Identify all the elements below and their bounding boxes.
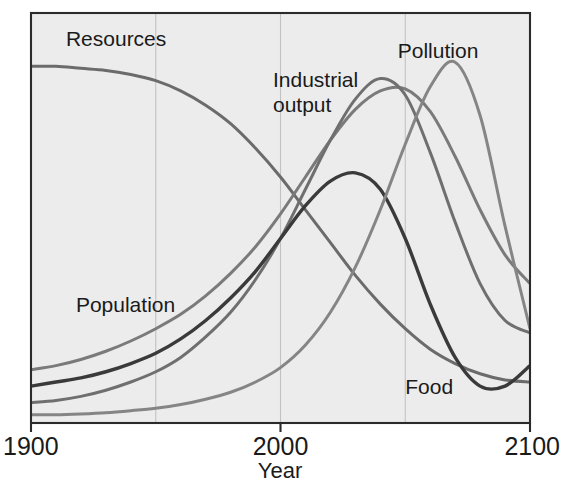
series-label-line: Resources <box>66 27 166 50</box>
tick-label-2100: 2100 <box>504 432 560 460</box>
chart-container: 190020002100 ResourcesPopulationIndustri… <box>0 0 563 487</box>
series-label-line: Pollution <box>398 39 479 62</box>
series-label-resources: Resources <box>66 27 166 50</box>
x-axis-title: Year <box>258 458 302 483</box>
tick-label-2000: 2000 <box>253 432 309 460</box>
x-axis-tick-labels: 190020002100 <box>3 432 560 460</box>
series-label-line: Population <box>76 293 175 316</box>
series-label-line: Food <box>405 375 453 398</box>
series-label-population: Population <box>76 293 175 316</box>
tick-label-1900: 1900 <box>3 432 59 460</box>
series-label-line: output <box>273 93 332 116</box>
series-label-pollution: Pollution <box>398 39 479 62</box>
x-axis-ticks <box>31 423 530 432</box>
limits-to-growth-line-chart: 190020002100 ResourcesPopulationIndustri… <box>0 0 563 487</box>
series-label-food: Food <box>405 375 453 398</box>
series-label-line: Industrial <box>273 68 358 91</box>
